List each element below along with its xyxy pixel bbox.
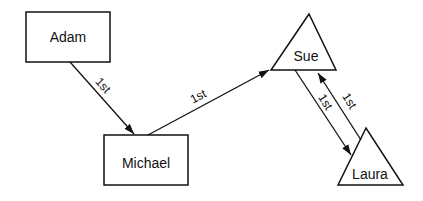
laura-label: Laura xyxy=(352,166,388,182)
edge-adam-michael: 1st xyxy=(70,62,134,134)
node-michael: Michael xyxy=(104,135,188,185)
edge-michael-sue: 1st xyxy=(148,70,269,135)
arrow-michael-sue xyxy=(148,70,269,135)
node-laura: Laura xyxy=(338,128,403,185)
michael-label: Michael xyxy=(122,155,170,171)
edge-label-sue-laura: 1st xyxy=(315,91,336,113)
diagram-canvas: Adam Michael Sue Laura 1st 1st 1st 1st xyxy=(0,0,423,201)
node-sue: Sue xyxy=(271,14,336,70)
arrow-adam-michael xyxy=(70,62,134,134)
sue-label: Sue xyxy=(294,48,319,64)
node-adam: Adam xyxy=(26,12,110,62)
edge-label-laura-sue: 1st xyxy=(339,90,360,112)
edge-label-adam-michael: 1st xyxy=(92,75,114,97)
adam-label: Adam xyxy=(50,29,87,45)
